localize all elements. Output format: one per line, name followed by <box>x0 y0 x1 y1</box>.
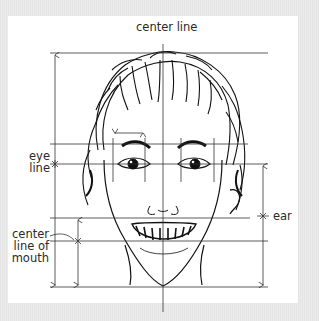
eyes-illustration <box>118 142 210 169</box>
mouth-label-3: mouth <box>5 252 49 264</box>
ear-label: ear <box>273 210 292 222</box>
eye-line-label: eye line <box>20 150 50 174</box>
mouth-label: center line of mouth <box>5 228 49 264</box>
mouth-pointer <box>50 234 74 240</box>
ear-illustration <box>230 190 240 214</box>
mouth-illustration <box>132 223 196 255</box>
center-line-label: center line <box>136 21 197 33</box>
eye-line-label-2: line <box>20 162 50 174</box>
